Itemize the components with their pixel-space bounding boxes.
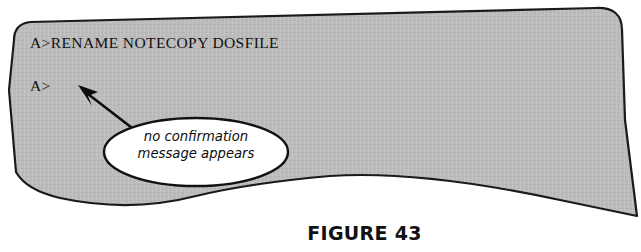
callout-bubble <box>104 118 288 186</box>
terminal-screen-shape <box>9 8 637 216</box>
figure-43-illustration: A>RENAME NOTECOPY DOSFILE A> no confirma… <box>0 0 641 252</box>
screen-illustration-svg <box>0 0 641 252</box>
figure-caption: FIGURE 43 <box>0 222 641 244</box>
